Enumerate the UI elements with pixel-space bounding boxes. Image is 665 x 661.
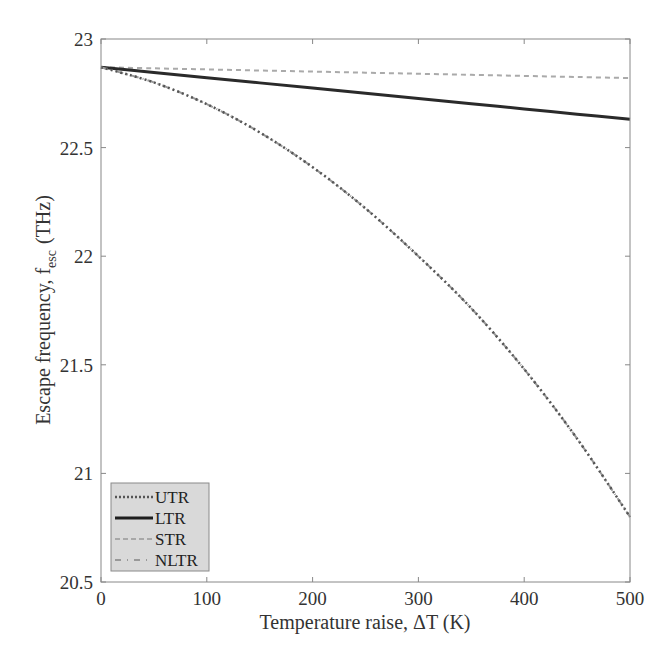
y-axis-label: Escape frequency, fesc(THz) xyxy=(32,195,59,425)
x-tick-label: 0 xyxy=(96,588,106,609)
y-tick-label: 21 xyxy=(74,463,93,484)
x-tick-label: 200 xyxy=(298,588,327,609)
legend-label-utr: UTR xyxy=(155,488,190,507)
y-axis-label-group: Escape frequency, fesc(THz) xyxy=(32,195,59,425)
y-tick-label: 20.5 xyxy=(60,572,93,593)
x-tick-labels: 0100200300400500 xyxy=(96,588,644,609)
x-tick-label: 500 xyxy=(616,588,645,609)
x-axis-label: Temperature raise, ΔT (K) xyxy=(260,611,471,634)
line-chart: 20.52121.52222.523 0100200300400500 Temp… xyxy=(0,0,665,661)
y-tick-labels: 20.52121.52222.523 xyxy=(60,29,93,593)
x-tick-label: 400 xyxy=(510,588,539,609)
y-tick-label: 22.5 xyxy=(60,138,93,159)
legend-label-nltr: NLTR xyxy=(155,551,198,570)
x-tick-label: 300 xyxy=(404,588,433,609)
y-tick-label: 21.5 xyxy=(60,355,93,376)
y-tick-label: 22 xyxy=(74,246,93,267)
x-tick-label: 100 xyxy=(193,588,222,609)
legend-label-str: STR xyxy=(155,530,187,549)
legend: UTR LTR STR NLTR xyxy=(111,483,209,571)
y-tick-label: 23 xyxy=(74,29,93,50)
legend-label-ltr: LTR xyxy=(155,509,186,528)
